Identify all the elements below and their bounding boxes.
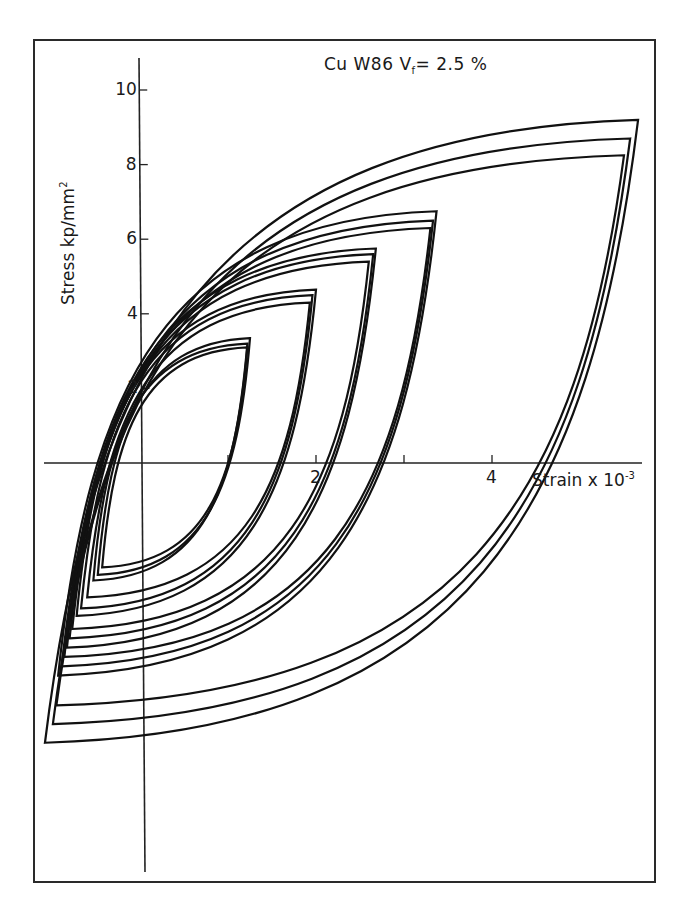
y-tick-label: 2 bbox=[127, 377, 138, 397]
y-tick-label: 10 bbox=[115, 79, 137, 99]
y-axis bbox=[139, 58, 145, 872]
hysteresis-loop bbox=[87, 303, 310, 598]
y-tick-label: 4 bbox=[127, 303, 138, 323]
hysteresis-loop bbox=[93, 344, 247, 581]
hysteresis-plot bbox=[0, 0, 687, 916]
y-tick-label: 8 bbox=[126, 154, 137, 174]
hysteresis-loops bbox=[45, 120, 638, 743]
hysteresis-loop bbox=[102, 347, 247, 567]
y-axis-label: Stress kp/mm2 bbox=[58, 181, 78, 305]
x-tick-label: 4 bbox=[486, 467, 497, 487]
x-axis-label: Strain x 10-3 bbox=[532, 470, 635, 490]
x-tick-label: 2 bbox=[310, 467, 321, 487]
chart-title: Cu W86 Vf= 2.5 % bbox=[324, 54, 487, 76]
y-tick-label: 6 bbox=[126, 228, 137, 248]
